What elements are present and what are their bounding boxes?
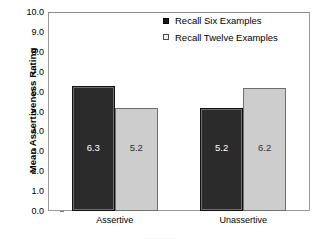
y-axis-tick-labels: 10.09.08.07.06.05.04.03.02.01.00.0 — [12, 12, 44, 211]
x-axis-category-label: Assertive — [96, 215, 133, 225]
bar: 6.3 — [72, 86, 115, 211]
y-tick-label: 0.0 — [12, 207, 44, 216]
bar: 6.2 — [243, 88, 286, 211]
y-tick-label: 5.0 — [12, 107, 44, 116]
y-tick-label: 8.0 — [12, 47, 44, 56]
legend-item: Recall Twelve Examples — [163, 33, 278, 43]
legend-swatch-icon — [163, 18, 169, 24]
bar-value-label: 5.2 — [201, 143, 242, 153]
y-tick-label: 6.0 — [12, 87, 44, 96]
y-tick-label: 4.0 — [12, 127, 44, 136]
caption-fragment: ................. — [0, 233, 323, 241]
bar-value-label: 5.2 — [116, 143, 157, 153]
legend-swatch-icon — [163, 34, 169, 40]
bar: 5.2 — [200, 108, 243, 211]
y-tick-label: 9.0 — [12, 27, 44, 36]
y-tick-label: 1.0 — [12, 187, 44, 196]
chart-legend: Recall Six ExamplesRecall Twelve Example… — [163, 16, 278, 42]
y-tick-mark — [60, 211, 64, 212]
bar-value-label: 6.3 — [73, 143, 114, 153]
y-tick-label: 7.0 — [12, 67, 44, 76]
bar-value-label: 6.2 — [244, 143, 285, 153]
y-tick-label: 3.0 — [12, 147, 44, 156]
legend-label: Recall Twelve Examples — [175, 33, 278, 43]
x-axis-category-label: Unassertive — [219, 215, 267, 225]
legend-item: Recall Six Examples — [163, 16, 278, 26]
bar: 5.2 — [115, 108, 158, 211]
y-tick-label: 10.0 — [12, 8, 44, 17]
legend-label: Recall Six Examples — [175, 16, 262, 26]
y-tick-label: 2.0 — [12, 167, 44, 176]
bar-chart: Mean Assertiveness Rating 10.09.08.07.06… — [0, 0, 323, 241]
